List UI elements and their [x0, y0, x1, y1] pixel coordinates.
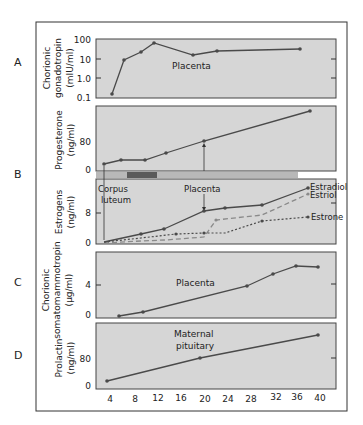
timeline-strip: [96, 172, 298, 178]
svg-text:20: 20: [199, 394, 211, 404]
hormone-chart: A B C D Chorionic gonadotropin (mIU/ml) …: [0, 0, 363, 425]
ylabel-prog-2: (ng/ml): [66, 124, 76, 157]
ytick-estr-8: 8: [85, 208, 91, 218]
timeline-strip-dark: [127, 172, 157, 178]
ylabel-prl-1: Prolactin: [54, 339, 64, 378]
ylabel-estr-1: Estrogens: [54, 189, 64, 234]
panel-prolactin: Prolactin (ng/ml) 80 0 Maternal pituitar…: [54, 323, 336, 391]
ylabel-hcg-1: Chorionic: [42, 47, 52, 89]
ytick-prog-0: 0: [85, 165, 91, 175]
annotation-corpus-1: Corpus: [98, 184, 128, 194]
legend-estrone: Estrone: [311, 212, 343, 222]
ytick-estr-0: 0: [85, 238, 91, 248]
panel-letter-a: A: [14, 56, 22, 69]
ytick-prl-80: 80: [80, 354, 92, 364]
ylabel-prl-2: (ng/ml): [66, 342, 76, 375]
panel-letter-b: B: [14, 168, 22, 181]
panel-letter-c: C: [14, 276, 22, 289]
annotation-corpus-2: luteum: [101, 195, 131, 205]
ytick-hcg-1: 1.0: [77, 74, 92, 84]
legend-estriol: Estriol: [310, 190, 337, 200]
svg-text:40: 40: [314, 393, 326, 403]
ylabel-hcs-2: somatomammotropin: [52, 241, 62, 338]
svg-text:4: 4: [107, 394, 113, 404]
ytick-prl-0: 0: [85, 381, 91, 391]
svg-text:32: 32: [270, 392, 281, 402]
annotation-maternal-1: Maternal: [174, 329, 214, 339]
ylabel-hcg-2: gonadotropin: [53, 38, 63, 98]
ytick-hcg-100: 100: [74, 35, 91, 45]
svg-text:16: 16: [175, 393, 187, 403]
svg-text:12: 12: [152, 393, 163, 403]
ytick-hcg-01: 0.1: [77, 93, 91, 103]
annotation-placenta-b: Placenta: [184, 184, 221, 194]
ylabel-hcs-3: (µg/ml): [64, 274, 74, 307]
ylabel-estr-2: (ng/ml): [66, 196, 76, 229]
annotation-placenta-a: Placenta: [172, 61, 211, 71]
annotation-placenta-c: Placenta: [176, 278, 215, 288]
annotation-maternal-2: pituitary: [176, 341, 215, 351]
ylabel-prog-1: Progesterone: [54, 110, 64, 170]
svg-text:28: 28: [245, 394, 257, 404]
ytick-hcg-10: 10: [80, 55, 92, 65]
ytick-hcs-4: 4: [85, 280, 91, 290]
ytick-prog-80: 80: [80, 137, 92, 147]
svg-text:8: 8: [132, 394, 138, 404]
ylabel-hcs-1: Chorionic: [41, 269, 51, 311]
panel-progesterone: Progesterone (ng/ml) 80 0: [54, 106, 336, 178]
svg-text:24: 24: [222, 394, 234, 404]
svg-text:36: 36: [291, 392, 303, 402]
panel-letter-d: D: [14, 349, 22, 362]
ytick-hcs-0: 0: [85, 310, 91, 320]
ylabel-hcg-3: (mIU/ml): [65, 48, 75, 87]
